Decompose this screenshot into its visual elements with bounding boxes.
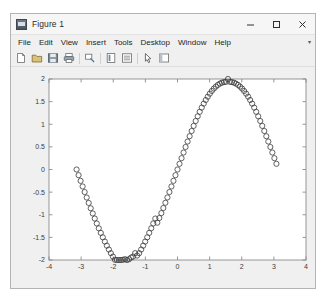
svg-text:-4: -4 <box>46 263 52 270</box>
close-icon[interactable] <box>289 14 315 34</box>
svg-text:1.5: 1.5 <box>35 98 45 105</box>
svg-text:0: 0 <box>176 263 180 270</box>
svg-text:-0.5: -0.5 <box>33 189 45 196</box>
svg-text:3: 3 <box>272 263 276 270</box>
svg-text:2: 2 <box>240 263 244 270</box>
svg-text:1: 1 <box>41 121 45 128</box>
menu-item-file[interactable]: File <box>14 35 35 50</box>
svg-text:1: 1 <box>208 263 212 270</box>
minimize-icon[interactable] <box>237 14 263 34</box>
menu-item-desktop[interactable]: Desktop <box>137 35 174 50</box>
menu-item-insert[interactable]: Insert <box>82 35 110 50</box>
svg-text:-2: -2 <box>110 263 116 270</box>
show-plot-tools-icon[interactable] <box>157 51 171 65</box>
svg-text:4: 4 <box>304 263 308 270</box>
figure-toolbar <box>11 50 315 67</box>
new-figure-icon[interactable] <box>14 51 28 65</box>
figure-window: Figure 1 File Edit View Insert Tools Des… <box>10 13 316 289</box>
toolbar-separator-2 <box>100 53 101 64</box>
svg-text:-1.5: -1.5 <box>33 234 45 241</box>
svg-text:2: 2 <box>41 75 45 82</box>
svg-text:-2: -2 <box>39 256 45 263</box>
screenshot-root: Figure 1 File Edit View Insert Tools Des… <box>0 0 329 299</box>
svg-text:-3: -3 <box>78 263 84 270</box>
toolbar-separator-1 <box>79 53 80 64</box>
print-figure-icon[interactable] <box>62 51 76 65</box>
svg-text:0.5: 0.5 <box>35 143 45 150</box>
toolbar-separator-3 <box>137 53 138 64</box>
window-title: Figure 1 <box>32 19 64 29</box>
plot-background <box>49 79 306 260</box>
menu-item-view[interactable]: View <box>57 35 82 50</box>
menu-item-tools[interactable]: Tools <box>110 35 137 50</box>
insert-legend-icon[interactable] <box>120 51 134 65</box>
insert-colorbar-icon[interactable] <box>104 51 118 65</box>
menu-item-edit[interactable]: Edit <box>35 35 57 50</box>
menu-bar: File Edit View Insert Tools Desktop Wind… <box>11 35 315 50</box>
maximize-icon[interactable] <box>263 14 289 34</box>
window-controls <box>237 14 315 34</box>
svg-text:-1: -1 <box>39 211 45 218</box>
scatter-plot: -4-3-2-101234-2-1.5-1-0.500.511.52 <box>11 67 315 288</box>
svg-text:0: 0 <box>41 166 45 173</box>
matlab-figure-icon <box>16 19 27 30</box>
link-plot-icon[interactable] <box>83 51 97 65</box>
figure-canvas[interactable]: -4-3-2-101234-2-1.5-1-0.500.511.52 <box>11 67 315 288</box>
open-file-icon[interactable] <box>30 51 44 65</box>
menu-overflow-icon[interactable]: ▾ <box>308 39 311 45</box>
menu-item-help[interactable]: Help <box>210 35 234 50</box>
save-figure-icon[interactable] <box>46 51 60 65</box>
menu-item-window[interactable]: Window <box>174 35 210 50</box>
pointer-arrow-icon[interactable] <box>141 51 155 65</box>
svg-text:-1: -1 <box>142 263 148 270</box>
window-titlebar[interactable]: Figure 1 <box>11 14 315 35</box>
